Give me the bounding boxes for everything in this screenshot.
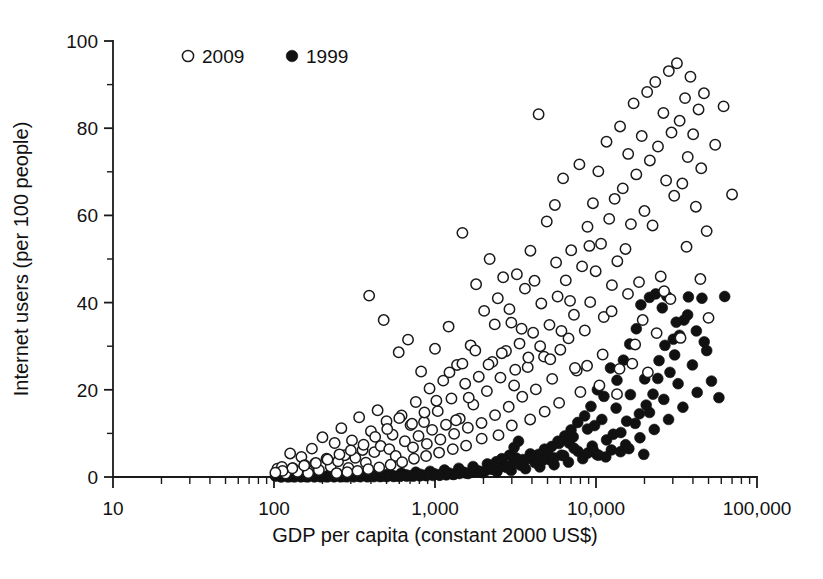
data-point-2009 bbox=[569, 310, 579, 320]
data-point-2009 bbox=[451, 415, 461, 425]
data-point-2009 bbox=[409, 453, 419, 463]
data-point-1999 bbox=[657, 302, 668, 313]
data-point-2009 bbox=[482, 386, 492, 396]
data-point-2009 bbox=[421, 451, 431, 461]
data-point-2009 bbox=[457, 358, 467, 368]
data-point-2009 bbox=[718, 101, 728, 111]
data-point-2009 bbox=[630, 339, 640, 349]
data-point-2009 bbox=[590, 266, 600, 276]
data-point-2009 bbox=[504, 402, 514, 412]
data-point-2009 bbox=[370, 432, 380, 442]
data-point-2009 bbox=[346, 445, 356, 455]
data-point-1999 bbox=[706, 376, 717, 387]
data-point-2009 bbox=[520, 283, 530, 293]
data-point-2009 bbox=[461, 440, 471, 450]
data-point-2009 bbox=[476, 418, 486, 428]
x-tick-label: 100,000 bbox=[723, 498, 792, 519]
data-point-2009 bbox=[683, 152, 693, 162]
data-point-2009 bbox=[416, 366, 426, 376]
data-point-1999 bbox=[663, 414, 674, 425]
data-point-2009 bbox=[347, 435, 357, 445]
data-point-2009 bbox=[554, 398, 564, 408]
data-point-1999 bbox=[649, 424, 660, 435]
data-point-2009 bbox=[311, 458, 321, 468]
data-point-2009 bbox=[639, 206, 649, 216]
data-point-1999 bbox=[634, 408, 645, 419]
data-point-2009 bbox=[675, 333, 685, 343]
data-point-1999 bbox=[589, 420, 600, 431]
chart-canvas: 020406080100101001,00010,000100,000 2009… bbox=[0, 0, 823, 579]
data-point-2009 bbox=[374, 462, 384, 472]
data-point-2009 bbox=[490, 410, 500, 420]
data-point-2009 bbox=[609, 194, 619, 204]
data-point-2009 bbox=[457, 228, 467, 238]
data-point-2009 bbox=[483, 359, 493, 369]
data-point-2009 bbox=[701, 226, 711, 236]
data-point-1999 bbox=[697, 293, 708, 304]
data-point-2009 bbox=[441, 419, 451, 429]
data-point-2009 bbox=[477, 433, 487, 443]
data-point-1999 bbox=[692, 387, 703, 398]
x-tick-label: 1,000 bbox=[411, 498, 459, 519]
scatter-chart-figure: 020406080100101001,00010,000100,000 2009… bbox=[0, 0, 823, 579]
data-point-2009 bbox=[672, 58, 682, 68]
data-point-1999 bbox=[549, 452, 560, 463]
data-point-2009 bbox=[403, 334, 413, 344]
legend-marker-1999 bbox=[286, 50, 298, 62]
data-point-2009 bbox=[382, 424, 392, 434]
x-tick-label: 10,000 bbox=[567, 498, 625, 519]
data-point-2009 bbox=[727, 189, 737, 199]
data-point-2009 bbox=[464, 392, 474, 402]
data-point-2009 bbox=[342, 467, 352, 477]
data-point-1999 bbox=[638, 449, 649, 460]
data-point-2009 bbox=[584, 241, 594, 251]
y-tick-label: 60 bbox=[77, 205, 98, 226]
data-point-2009 bbox=[285, 448, 295, 458]
data-point-1999 bbox=[621, 416, 632, 427]
data-point-2009 bbox=[317, 432, 327, 442]
data-point-2009 bbox=[593, 166, 603, 176]
data-point-2009 bbox=[419, 417, 429, 427]
data-point-2009 bbox=[574, 159, 584, 169]
data-point-2009 bbox=[612, 389, 622, 399]
y-tick-label: 100 bbox=[66, 31, 98, 52]
data-point-2009 bbox=[570, 363, 580, 373]
data-point-2009 bbox=[443, 321, 453, 331]
chart-background bbox=[0, 0, 823, 579]
data-point-2009 bbox=[596, 239, 606, 249]
data-point-2009 bbox=[354, 412, 364, 422]
data-point-1999 bbox=[623, 443, 634, 454]
data-point-2009 bbox=[585, 297, 595, 307]
data-point-1999 bbox=[687, 360, 698, 371]
data-point-2009 bbox=[535, 341, 545, 351]
x-tick-label: 10 bbox=[102, 498, 123, 519]
legend-marker-2009 bbox=[182, 50, 193, 61]
data-point-2009 bbox=[699, 88, 709, 98]
data-point-2009 bbox=[558, 173, 568, 183]
data-point-2009 bbox=[493, 430, 503, 440]
data-point-2009 bbox=[363, 464, 373, 474]
data-point-2009 bbox=[664, 66, 674, 76]
x-axis-title: GDP per capita (constant 2000 US$) bbox=[272, 524, 597, 546]
legend-label-1999: 1999 bbox=[306, 46, 348, 67]
legend-label-2009: 2009 bbox=[202, 46, 244, 67]
data-point-2009 bbox=[411, 397, 421, 407]
data-point-2009 bbox=[642, 87, 652, 97]
data-point-1999 bbox=[648, 389, 659, 400]
data-point-2009 bbox=[372, 405, 382, 415]
data-point-1999 bbox=[671, 317, 682, 328]
data-point-2009 bbox=[597, 349, 607, 359]
data-point-2009 bbox=[607, 280, 617, 290]
data-point-2009 bbox=[531, 384, 541, 394]
y-tick-label: 0 bbox=[87, 467, 98, 488]
data-point-2009 bbox=[435, 434, 445, 444]
data-point-2009 bbox=[422, 439, 432, 449]
data-point-2009 bbox=[307, 443, 317, 453]
data-point-2009 bbox=[490, 319, 500, 329]
data-point-2009 bbox=[471, 279, 481, 289]
data-point-2009 bbox=[655, 271, 665, 281]
data-point-1999 bbox=[611, 403, 622, 414]
data-point-2009 bbox=[539, 406, 549, 416]
data-point-1999 bbox=[586, 401, 597, 412]
data-point-2009 bbox=[638, 315, 648, 325]
